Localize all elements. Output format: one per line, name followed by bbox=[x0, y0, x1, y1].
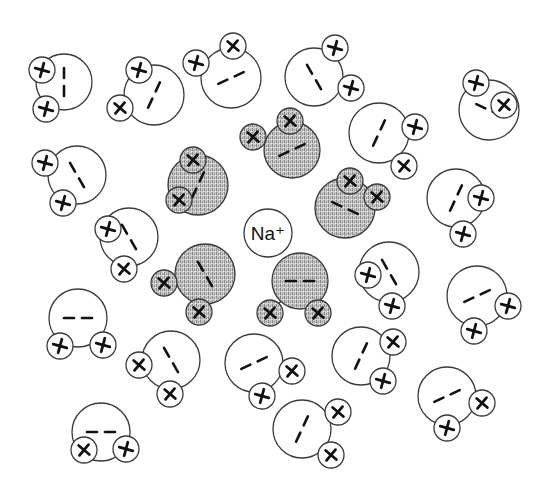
sodium-ion: Na⁺ bbox=[244, 209, 292, 257]
diagram-canvas: Na⁺ Na+ ion surrounded by water molecule… bbox=[0, 0, 549, 496]
water-molecule bbox=[183, 33, 261, 108]
water-molecule bbox=[418, 367, 495, 441]
hydration-diagram: Na⁺ bbox=[0, 0, 549, 496]
water-molecule bbox=[107, 57, 184, 125]
oxygen-atom bbox=[225, 334, 283, 392]
water-molecule bbox=[355, 242, 419, 319]
water-molecule bbox=[349, 103, 428, 179]
sodium-ion-label: Na⁺ bbox=[251, 223, 285, 244]
water-molecule bbox=[332, 327, 406, 394]
water-molecule bbox=[273, 399, 351, 468]
oxygen-atom bbox=[447, 266, 507, 326]
water-molecule bbox=[447, 266, 521, 344]
water-molecule bbox=[166, 147, 228, 215]
water-molecule bbox=[240, 108, 320, 178]
oxygen-atom bbox=[175, 244, 235, 304]
water-molecule bbox=[151, 244, 235, 325]
water-molecule bbox=[427, 169, 494, 247]
water-molecule bbox=[285, 35, 364, 106]
water-molecule bbox=[459, 70, 519, 140]
water-molecule bbox=[257, 253, 331, 326]
water-molecule bbox=[71, 403, 139, 463]
water-molecule bbox=[95, 208, 158, 282]
water-molecule bbox=[315, 168, 390, 238]
water-molecule bbox=[225, 334, 305, 409]
water-molecule bbox=[126, 331, 200, 407]
water-molecule bbox=[32, 146, 106, 216]
water-molecule bbox=[29, 54, 92, 122]
water-molecule bbox=[47, 289, 116, 359]
